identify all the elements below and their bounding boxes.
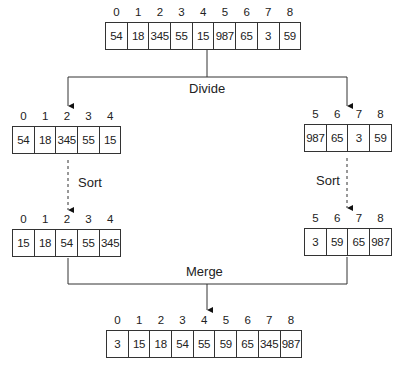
array-cell: 5987 [304, 124, 327, 152]
sort-right-label: Sort [316, 173, 340, 188]
array-cell: 118 [127, 22, 150, 50]
array-cell: 765 [347, 228, 370, 256]
array-cell: 659 [326, 228, 349, 256]
array-cell: 355 [170, 22, 193, 50]
array-cell: 415 [99, 126, 122, 154]
divide-connector [68, 50, 347, 106]
array-cell: 355 [77, 229, 100, 257]
right-sorted-array: 53 659 765 8987 [304, 228, 392, 256]
array-cell: 355 [77, 126, 100, 154]
original-array: 054 118 2345 355 415 5987 665 73 859 [105, 22, 301, 50]
array-cell: 2345 [55, 126, 78, 154]
array-cell: 8987 [369, 228, 392, 256]
array-cell: 455 [193, 330, 216, 358]
array-cell: 53 [304, 228, 327, 256]
array-cell: 354 [171, 330, 194, 358]
array-cell: 859 [279, 22, 302, 50]
array-cell: 73 [257, 22, 280, 50]
right-half-array: 5987 665 73 859 [304, 124, 392, 152]
divide-label: Divide [189, 81, 225, 96]
array-cell: 415 [192, 22, 215, 50]
array-cell: 859 [369, 124, 392, 152]
array-cell: 115 [128, 330, 151, 358]
array-cell: 2345 [148, 22, 171, 50]
sort-connector [68, 158, 347, 210]
array-cell: 03 [106, 330, 129, 358]
array-cell: 5987 [213, 22, 236, 50]
array-cell: 118 [34, 126, 57, 154]
sort-left-label: Sort [78, 175, 102, 190]
array-cell: 73 [347, 124, 370, 152]
left-half-array: 054 118 2345 355 415 [12, 126, 121, 154]
array-cell: 054 [105, 22, 128, 50]
merge-label: Merge [186, 264, 223, 279]
array-cell: 218 [149, 330, 172, 358]
array-cell: 665 [235, 22, 258, 50]
array-cell: 015 [12, 229, 35, 257]
merged-array: 03 115 218 354 455 559 665 7345 8987 [106, 330, 302, 358]
array-cell: 118 [34, 229, 57, 257]
array-cell: 665 [326, 124, 349, 152]
array-cell: 4345 [99, 229, 122, 257]
left-sorted-array: 015 118 254 355 4345 [12, 229, 121, 257]
array-cell: 8987 [280, 330, 303, 358]
array-cell: 254 [55, 229, 78, 257]
array-cell: 7345 [258, 330, 281, 358]
array-cell: 665 [236, 330, 259, 358]
array-cell: 054 [12, 126, 35, 154]
array-cell: 559 [214, 330, 237, 358]
